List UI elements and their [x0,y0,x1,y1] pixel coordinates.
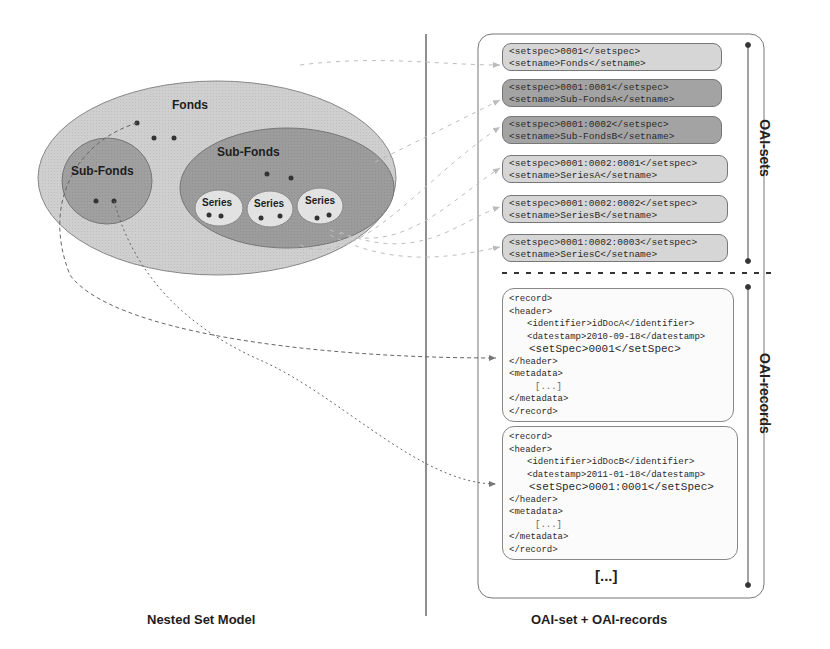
oai-sets-label: OAI-sets [757,118,773,178]
metadata-close-tag: </metadata> [509,393,727,406]
setspec-line: <setSpec>0001</setSpec> [509,343,727,356]
metadata-body: [...] [509,381,727,394]
setspec-line: <setspec>0001</setspec> [509,46,715,58]
oai-set-fonds: <setspec>0001</setspec> <setname>Fonds</… [502,43,722,71]
oai-records-label: OAI-records [757,353,773,433]
record-close-tag: </record> [509,544,731,557]
subfonds-right-ellipse [180,128,394,248]
subfonds-right-label: Sub-Fonds [217,145,280,159]
right-caption: OAI-set + OAI-records [531,612,667,627]
oai-set-series-a: <setspec>0001:0002:0001</setspec> <setna… [502,155,728,183]
series-label-3: Series [305,195,335,206]
identifier-line: <identifier>idDocB</identifier> [509,456,731,469]
subfonds-left-ellipse [62,138,152,224]
metadata-body: [...] [509,519,731,532]
oai-set-series-c: <setspec>0001:0002:0003</setspec> <setna… [502,234,728,262]
oai-set-subfonds-b: <setspec>0001:0002</setspec> <setname>Su… [502,116,722,144]
setname-line: <setname>SeriesA</setname> [509,170,721,182]
more-records-indicator: [...] [595,567,618,584]
setname-line: <setname>SeriesC</setname> [509,249,721,261]
fonds-label: Fonds [172,98,208,112]
header-close-tag: </header> [509,494,731,507]
record-close-tag: </record> [509,406,727,419]
setspec-line: <setspec>0001:0002:0001</setspec> [509,158,721,170]
left-caption: Nested Set Model [147,612,255,627]
record-open-tag: <record> [509,431,731,444]
series-label-1: Series [202,197,232,208]
setname-line: <setname>Fonds</setname> [509,58,715,70]
setspec-line: <setspec>0001:0002:0002</setspec> [509,198,721,210]
metadata-open-tag: <metadata> [509,368,727,381]
header-open-tag: <header> [509,306,727,319]
identifier-line: <identifier>idDocA</identifier> [509,318,727,331]
setname-line: <setname>Sub-FondsB</setname> [509,131,715,143]
header-close-tag: </header> [509,356,727,369]
header-open-tag: <header> [509,444,731,457]
record-open-tag: <record> [509,293,727,306]
datestamp-line: <datestamp>2010-09-18</datestamp> [509,331,727,344]
setspec-line: <setspec>0001:0002:0003</setspec> [509,237,721,249]
setname-line: <setname>SeriesB</setname> [509,210,721,222]
oai-set-series-b: <setspec>0001:0002:0002</setspec> <setna… [502,195,728,223]
metadata-open-tag: <metadata> [509,506,731,519]
datestamp-line: <datestamp>2011-01-18</datestamp> [509,469,731,482]
setspec-line: <setSpec>0001:0001</setSpec> [509,481,731,494]
metadata-close-tag: </metadata> [509,531,731,544]
setname-line: <setname>Sub-FondsA</setname> [509,94,715,106]
subfonds-left-label: Sub-Fonds [71,164,134,178]
setspec-line: <setspec>0001:0001</setspec> [509,82,715,94]
oai-record-b: <record> <header> <identifier>idDocB</id… [502,426,738,560]
oai-set-subfonds-a: <setspec>0001:0001</setspec> <setname>Su… [502,79,722,107]
series-label-2: Series [254,198,284,209]
oai-record-a: <record> <header> <identifier>idDocA</id… [502,288,734,422]
setspec-line: <setspec>0001:0002</setspec> [509,119,715,131]
